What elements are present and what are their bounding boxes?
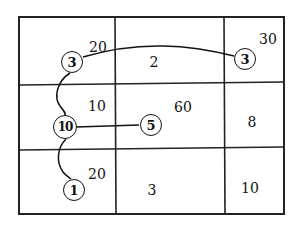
edge-middle-line [76, 125, 139, 127]
cell-value-r1c2: 2 [150, 55, 159, 69]
node-top-left: 3 [61, 51, 83, 73]
cell-value-r1c3: 30 [259, 32, 277, 46]
node-mid-center: 5 [140, 114, 162, 136]
cell-value-r3c1: 20 [88, 167, 106, 181]
node-mid-left: 10 [53, 115, 77, 139]
cell-value-r2c2: 60 [174, 100, 192, 114]
edge-left-upper-curve [57, 73, 70, 116]
grid-divider-v1 [115, 17, 116, 214]
cell-value-r2c3: 8 [248, 115, 257, 129]
grid-divider-v2 [224, 17, 225, 214]
node-bottom-left: 1 [63, 179, 85, 201]
cell-value-r3c3: 10 [241, 181, 259, 195]
cell-value-r1c1: 20 [89, 40, 107, 54]
grid-divider-h2 [19, 147, 284, 150]
cell-value-r3c2: 3 [148, 183, 157, 197]
edge-left-lower-curve [58, 139, 71, 179]
cell-value-r2c1: 10 [88, 99, 106, 113]
node-top-right: 3 [234, 48, 256, 70]
